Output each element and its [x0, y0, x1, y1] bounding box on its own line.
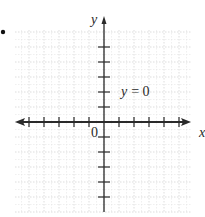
equation-label: y= 0 — [119, 84, 150, 99]
y-axis-label: y — [89, 12, 98, 27]
origin-label: 0 — [91, 125, 98, 140]
up-arrow-icon — [102, 16, 107, 24]
bullet-icon — [1, 30, 5, 34]
y-axis — [98, 16, 110, 212]
x-axis-label: x — [198, 125, 205, 140]
equation-var: y — [119, 84, 128, 99]
coordinate-plane: y x 0 y= 0 — [0, 0, 205, 217]
equation-rest: = 0 — [131, 84, 149, 99]
x-axis — [15, 117, 191, 127]
